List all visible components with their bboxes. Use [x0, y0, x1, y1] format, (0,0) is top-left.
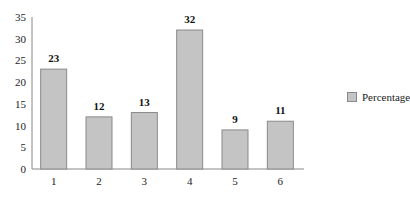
legend-swatch: [347, 92, 357, 102]
y-tick-label: 5: [21, 141, 27, 153]
data-label: 11: [275, 104, 285, 116]
y-tick-label: 25: [15, 54, 27, 66]
x-tick-label: 4: [187, 175, 193, 187]
data-label: 32: [184, 13, 196, 25]
legend: Percentage: [347, 91, 410, 103]
axes: [32, 17, 304, 169]
data-label: 9: [232, 113, 238, 125]
x-tick-label: 2: [96, 175, 102, 187]
data-label: 12: [94, 100, 106, 112]
bars: [41, 30, 294, 169]
x-tick-label: 1: [51, 175, 57, 187]
y-tick-label: 20: [15, 76, 27, 88]
bar: [41, 69, 67, 169]
x-tick-labels: 123456: [51, 175, 284, 187]
y-tick-label: 30: [15, 33, 27, 45]
x-tick-label: 5: [232, 175, 238, 187]
y-tick-label: 15: [15, 98, 27, 110]
y-tick-label: 0: [21, 163, 27, 175]
y-tick-label: 35: [15, 11, 27, 23]
data-labels: 23121332911: [48, 13, 285, 125]
y-tick-label: 10: [15, 120, 27, 132]
bar: [267, 121, 293, 169]
x-tick-label: 6: [278, 175, 284, 187]
bar: [222, 130, 248, 169]
data-label: 23: [48, 52, 60, 64]
bar: [86, 117, 112, 169]
bar: [131, 113, 157, 169]
x-tick-label: 3: [142, 175, 148, 187]
bar: [177, 30, 203, 169]
y-tick-labels: 05101520253035: [15, 11, 27, 175]
legend-label: Percentage: [362, 91, 410, 103]
data-label: 13: [139, 96, 151, 108]
